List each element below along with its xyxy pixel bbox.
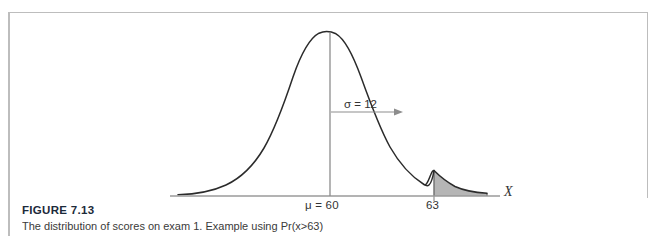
sigma-arrow-head [394, 109, 403, 116]
x-axis-label: X [504, 184, 513, 200]
sigma-annotation-label: σ = 12 [344, 98, 377, 110]
figure-page: μ = 60 63 σ = 12 X FIGURE 7.13 The distr… [0, 0, 658, 236]
figure-number-label: FIGURE 7.13 [22, 203, 642, 217]
figure-caption-text: The distribution of scores on exam 1. Ex… [22, 220, 642, 233]
figure-caption: FIGURE 7.13 The distribution of scores o… [22, 203, 642, 233]
